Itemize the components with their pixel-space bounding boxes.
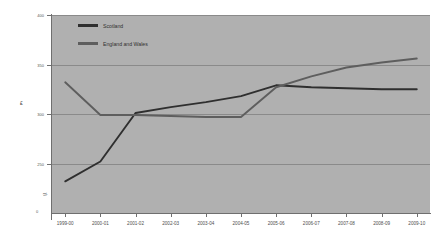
legend-swatch-england-and-wales bbox=[78, 42, 98, 44]
x-tick-label: 2009-10 bbox=[397, 221, 437, 226]
y-tick-label: 250 bbox=[22, 161, 44, 166]
x-tick bbox=[100, 213, 101, 217]
axis-break-icon: ≈ bbox=[42, 191, 48, 198]
legend-swatch-scotland bbox=[78, 24, 98, 26]
legend-item-england-and-wales: England and Wales bbox=[78, 38, 148, 49]
y-tick bbox=[47, 114, 51, 115]
x-tick bbox=[171, 213, 172, 217]
x-tick-label: 2007-08 bbox=[326, 221, 366, 226]
x-tick bbox=[241, 213, 242, 217]
series-line-scotland bbox=[65, 85, 417, 181]
x-tick-label: 2002-03 bbox=[151, 221, 191, 226]
x-tick-label: 2008-09 bbox=[362, 221, 402, 226]
y-tick bbox=[47, 15, 51, 16]
y-axis-zero-label: 0 bbox=[36, 209, 38, 214]
x-tick bbox=[65, 213, 66, 217]
legend-item-scotland: Scotland bbox=[78, 20, 148, 31]
x-tick bbox=[136, 213, 137, 217]
x-tick-label: 1999-00 bbox=[45, 221, 85, 226]
x-tick bbox=[311, 213, 312, 217]
y-tick-label: 350 bbox=[22, 62, 44, 67]
legend-label-england-and-wales: England and Wales bbox=[103, 41, 148, 47]
x-tick-label: 2003-04 bbox=[186, 221, 226, 226]
x-tick bbox=[382, 213, 383, 217]
x-tick-label: 2000-01 bbox=[80, 221, 120, 226]
chart-legend: Scotland England and Wales bbox=[78, 20, 148, 56]
series-line-england-and-wales bbox=[65, 59, 417, 117]
x-tick-label: 2001-02 bbox=[116, 221, 156, 226]
y-tick-label: 400 bbox=[22, 13, 44, 18]
x-tick-label: 2006-07 bbox=[291, 221, 331, 226]
y-axis-line bbox=[51, 14, 52, 220]
y-axis-unit-label: £ bbox=[20, 100, 23, 106]
x-tick-label: 2004-05 bbox=[221, 221, 261, 226]
x-tick bbox=[417, 213, 418, 217]
x-tick-label: 2005-06 bbox=[256, 221, 296, 226]
x-tick bbox=[346, 213, 347, 217]
x-tick bbox=[276, 213, 277, 217]
legend-label-scotland: Scotland bbox=[103, 23, 123, 29]
y-tick-label: 300 bbox=[22, 112, 44, 117]
y-tick bbox=[47, 65, 51, 66]
y-tick bbox=[47, 164, 51, 165]
chart-screenshot: 250300350400 £ ≈ 0 1999-002000-012001-02… bbox=[0, 0, 444, 248]
x-tick bbox=[206, 213, 207, 217]
